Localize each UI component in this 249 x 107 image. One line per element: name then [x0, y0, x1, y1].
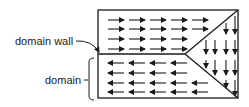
upper-diagonal-domain-wall: [185, 10, 238, 54]
domain-walls: [98, 10, 238, 98]
domain-wall-pointer-arrow: [76, 41, 99, 52]
magnetic-domain-diagram: domain wall domain: [0, 0, 249, 107]
left-arrows: [108, 63, 208, 92]
domain-bracket: [89, 58, 94, 100]
domain-label: domain: [45, 74, 81, 86]
domain-wall-label: domain wall: [15, 35, 73, 47]
right-arrows: [108, 20, 208, 49]
lower-diagonal-domain-wall: [185, 54, 238, 98]
